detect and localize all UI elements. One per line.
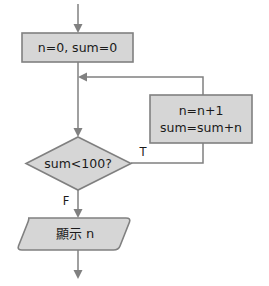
node-increment-line2: sum=sum+n — [160, 120, 242, 135]
connector-loop-back — [78, 73, 203, 96]
connector-false-branch — [74, 190, 83, 218]
branch-label-true: T — [138, 145, 147, 159]
flowchart-diagram: n=0, sum=0 n=n+1 sum=sum+n sum<100? T F … — [0, 0, 269, 286]
node-output[interactable]: 顯示 n — [18, 218, 130, 250]
node-condition[interactable]: sum<100? — [26, 137, 131, 190]
node-increment-line1: n=n+1 — [179, 103, 224, 118]
node-increment[interactable]: n=n+1 sum=sum+n — [150, 95, 252, 143]
connector-init-to-decision — [74, 62, 83, 137]
node-initialize[interactable]: n=0, sum=0 — [22, 33, 133, 62]
branch-label-false: F — [63, 194, 70, 208]
flowchart-canvas: n=0, sum=0 n=n+1 sum=sum+n sum<100? T F … — [0, 0, 269, 286]
connector-exit — [74, 250, 83, 279]
node-condition-label: sum<100? — [44, 156, 112, 171]
node-output-label: 顯示 n — [56, 226, 94, 241]
connector-entry — [74, 4, 83, 33]
node-initialize-label: n=0, sum=0 — [38, 40, 117, 55]
